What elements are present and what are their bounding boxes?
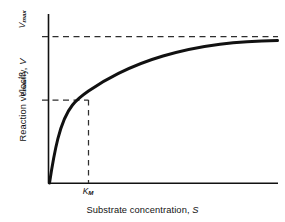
michaelis-menten-curve	[50, 41, 278, 183]
vmax-half-variable: V	[17, 92, 27, 98]
vmax-half-subscript: max	[20, 79, 27, 91]
michaelis-menten-plot	[0, 0, 285, 222]
km-subscript: M	[88, 189, 93, 196]
figure-container: Reaction velocity, V Substrate concentra…	[0, 0, 285, 222]
vmax-subscript: max	[20, 10, 27, 22]
x-axis-title-text: Substrate concentration,	[86, 205, 192, 215]
x-tick-label-km: KM	[72, 186, 104, 196]
y-tick-label-vmax-half: Vmax/2	[17, 72, 27, 138]
y-tick-label-vmax: Vmax	[17, 10, 27, 72]
x-axis-title-variable: S	[192, 205, 198, 215]
vmax-variable: V	[17, 23, 27, 29]
x-axis-title: Substrate concentration, S	[0, 205, 285, 215]
vmax-half-suffix: /2	[17, 72, 27, 79]
